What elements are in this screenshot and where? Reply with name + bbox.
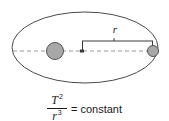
radius-bracket-left-endpoint (80, 50, 84, 53)
equation-fraction: T2 r3 (47, 94, 67, 121)
numerator-symbol: T (51, 93, 58, 107)
denominator-exponent: 3 (58, 109, 62, 116)
equation-numerator: T2 (48, 94, 66, 107)
denominator-symbol: r (52, 109, 57, 121)
fraction-bar (47, 108, 67, 109)
radius-measure-bracket (80, 38, 153, 53)
orbiting-planet-body (148, 46, 159, 57)
kepler-equation: T2 r3 = constant (0, 92, 169, 121)
orbit-ellipse (12, 12, 158, 83)
central-star-body (47, 43, 64, 60)
equation-denominator: r3 (49, 110, 65, 121)
numerator-exponent: 2 (59, 93, 63, 100)
radius-label: r (108, 24, 122, 35)
equation-right-side: constant (80, 103, 122, 115)
kepler-third-law-figure: r T2 r3 = constant (0, 0, 169, 121)
equals-sign: = (71, 103, 77, 115)
